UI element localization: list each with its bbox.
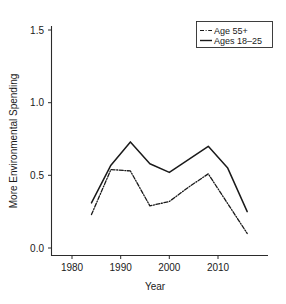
y-tick-label-0.5: 0.5 [30, 170, 44, 181]
x-tick-label-2010: 2010 [207, 262, 230, 273]
y-tick-label-0.0: 0.0 [30, 243, 44, 254]
legend: Age 55+ Ages 18–25 [197, 22, 273, 48]
legend-label-ages-18-25: Ages 18–25 [214, 36, 262, 46]
line-chart: 1.5 1.0 0.5 0.0 1980 1990 2000 2010 Year… [0, 0, 286, 304]
x-tick-label-1990: 1990 [110, 262, 133, 273]
x-axis-title: Year [145, 281, 166, 292]
chart-container: 1.5 1.0 0.5 0.0 1980 1990 2000 2010 Year… [0, 0, 286, 304]
x-tick-label-2000: 2000 [158, 262, 181, 273]
legend-label-age-55-plus: Age 55+ [214, 26, 248, 36]
y-tick-label-1.5: 1.5 [30, 25, 44, 36]
y-axis-title: More Environmental Spending [8, 74, 19, 209]
series-group [91, 142, 247, 234]
y-tick-label-1.0: 1.0 [30, 97, 44, 108]
series-line-age-55 [91, 170, 247, 234]
x-tick-label-1980: 1980 [61, 262, 84, 273]
